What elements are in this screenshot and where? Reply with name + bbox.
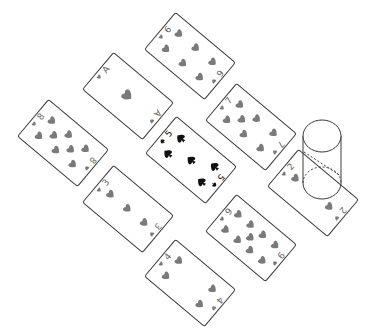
- card-8-hearts[interactable]: 88: [18, 100, 109, 187]
- scene-canvas: 66AA77885522339944: [0, 0, 372, 336]
- card-3-hearts[interactable]: 33: [83, 166, 174, 253]
- card-9-hearts[interactable]: 99: [206, 195, 297, 282]
- card-outline: [145, 13, 236, 100]
- card-6-hearts[interactable]: 66: [145, 13, 236, 100]
- card-outline: [145, 240, 236, 327]
- card-outline: [18, 100, 109, 187]
- card-2-hearts[interactable]: 22: [268, 150, 359, 237]
- card-a-hearts[interactable]: AA: [83, 53, 174, 140]
- card-table-scene: 66AA77885522339944: [0, 0, 372, 336]
- card-4-hearts[interactable]: 44: [145, 240, 236, 327]
- card-outline: [268, 150, 359, 237]
- glass-rim: [303, 120, 341, 152]
